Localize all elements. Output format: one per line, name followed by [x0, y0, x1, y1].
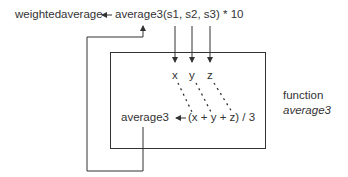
param-link-y: [196, 83, 211, 112]
function-name-label: average3: [283, 105, 331, 117]
result-variable: weightedaverage: [15, 9, 103, 21]
function-label: function: [283, 90, 323, 102]
param-y: y: [189, 70, 195, 82]
body-target: average3: [121, 112, 169, 124]
param-z: z: [207, 70, 213, 82]
param-x: x: [172, 70, 178, 82]
param-link-x: [178, 83, 192, 112]
return-path: [87, 26, 143, 171]
function-box: [111, 53, 266, 149]
param-link-z: [214, 83, 232, 112]
call-expression: average3(s1, s2, s3) * 10: [115, 9, 244, 21]
body-expression: (x + y + z) / 3: [188, 112, 255, 124]
